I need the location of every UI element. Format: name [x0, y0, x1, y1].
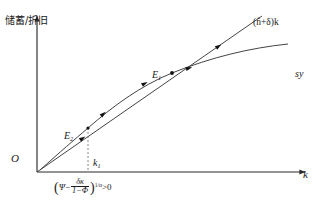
direction-arrowheads	[79, 43, 223, 142]
equilibrium-point-e1	[170, 71, 174, 75]
equilibrium-label-e2: E2	[64, 130, 73, 142]
depreciation-line-label: (n̂+δ)k	[253, 17, 279, 27]
y-axis-label: 储蓄/折旧	[5, 12, 48, 27]
cond-denominator: 1−Φ	[71, 186, 89, 195]
depreciation-line	[37, 16, 262, 172]
arrowhead-sy-lower	[100, 110, 108, 117]
growth-model-diagram	[0, 0, 320, 218]
cond-numerator: δκ	[71, 178, 89, 186]
positivity-condition-formula: (Ψ−δκ1−Φ)1/α>0	[54, 178, 112, 196]
cond-exponent: 1/α	[95, 182, 102, 188]
k1-tick-label: k1	[93, 157, 101, 169]
k1-subscript: 1	[97, 162, 100, 169]
cond-minus: −	[65, 182, 70, 192]
savings-curve-label: sy	[295, 68, 303, 79]
e2-subscript: 2	[70, 135, 73, 142]
equilibrium-point-e2	[86, 126, 89, 129]
savings-curve	[40, 44, 288, 170]
equilibrium-label-e1: E1	[152, 69, 161, 81]
x-axis-label: k	[303, 168, 308, 180]
cond-fraction: δκ1−Φ	[71, 178, 89, 196]
arrowhead-sy-mid	[141, 80, 149, 87]
origin-label: O	[11, 152, 19, 164]
cond-relation: >0	[102, 182, 112, 192]
e1-subscript: 1	[158, 74, 161, 81]
